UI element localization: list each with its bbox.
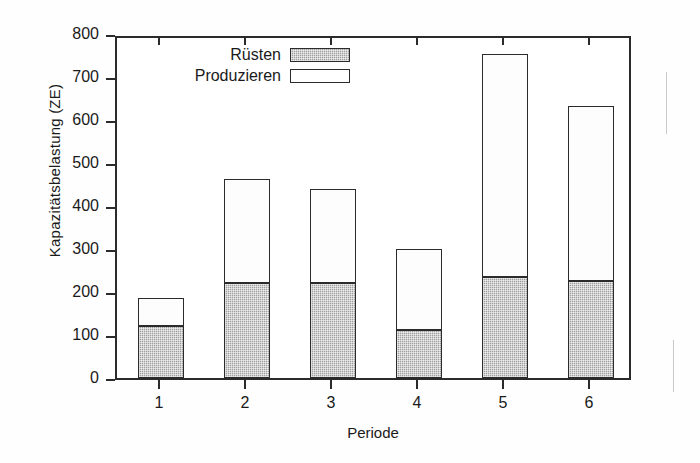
bar-segment-produzieren: [138, 298, 184, 326]
bar-segment-produzieren: [310, 189, 356, 283]
y-tick-mark: [106, 336, 115, 338]
y-tick-label: 400: [72, 197, 99, 215]
chart-legend: RüstenProduzieren: [160, 44, 350, 86]
bar-segment-produzieren: [482, 54, 528, 277]
y-tick-label: 500: [72, 154, 99, 172]
bar-segment-produzieren: [568, 106, 614, 281]
y-tick-label: 200: [72, 283, 99, 301]
y-tick-mark: [106, 121, 115, 123]
y-tick-mark: [106, 250, 115, 252]
y-tick-mark: [106, 78, 115, 80]
y-tick-label: 700: [72, 68, 99, 86]
x-tick-mark: [158, 380, 160, 389]
y-tick-mark: [106, 164, 115, 166]
legend-label: Produzieren: [195, 67, 281, 85]
bar-stack: [138, 298, 184, 378]
bar-segment-ruesten: [224, 283, 270, 378]
bar-stack: [482, 54, 528, 378]
scan-artifact-mark: [673, 340, 674, 392]
x-tick-mark: [330, 380, 332, 389]
legend-swatch-ruesten: [290, 48, 350, 62]
plot-area: [115, 36, 631, 380]
legend-swatch-produzieren: [290, 69, 350, 83]
bar-segment-produzieren: [396, 249, 442, 330]
bar-segment-ruesten: [568, 281, 614, 378]
y-tick-mark: [106, 35, 115, 37]
bar-segment-produzieren: [224, 179, 270, 283]
bar-stack: [568, 106, 614, 378]
bar-segment-ruesten: [138, 326, 184, 378]
x-axis-title: Periode: [115, 424, 631, 441]
x-tick-label: 3: [309, 394, 353, 412]
bar-segment-ruesten: [396, 330, 442, 378]
x-tick-label: 2: [223, 394, 267, 412]
x-tick-label: 5: [481, 394, 525, 412]
y-tick-label: 100: [72, 326, 99, 344]
bar-segment-ruesten: [482, 277, 528, 378]
y-tick-label: 0: [90, 369, 99, 387]
y-tick-label: 300: [72, 240, 99, 258]
chart-figure: Kapazitätsbelastung (ZE) 010020030040050…: [0, 0, 700, 463]
y-tick-mark: [106, 207, 115, 209]
x-tick-mark: [588, 380, 590, 389]
x-tick-mark: [416, 380, 418, 389]
x-tick-mark-top: [502, 36, 504, 45]
x-tick-label: 4: [395, 394, 439, 412]
bar-stack: [396, 249, 442, 378]
bar-stack: [224, 179, 270, 378]
y-tick-label: 600: [72, 111, 99, 129]
scan-artifact-mark: [666, 72, 667, 134]
x-tick-label: 6: [567, 394, 611, 412]
x-tick-mark: [244, 380, 246, 389]
bar-stack: [310, 189, 356, 378]
y-tick-mark: [106, 379, 115, 381]
x-tick-mark-top: [588, 36, 590, 45]
legend-label: Rüsten: [230, 46, 281, 64]
x-tick-mark-top: [416, 36, 418, 45]
legend-entry: Produzieren: [160, 65, 350, 86]
y-tick-mark: [106, 293, 115, 295]
legend-entry: Rüsten: [160, 44, 350, 65]
bar-segment-ruesten: [310, 283, 356, 378]
y-axis-title: Kapazitätsbelastung (ZE): [46, 21, 63, 321]
x-tick-label: 1: [137, 394, 181, 412]
x-tick-mark: [502, 380, 504, 389]
y-tick-label: 800: [72, 25, 99, 43]
